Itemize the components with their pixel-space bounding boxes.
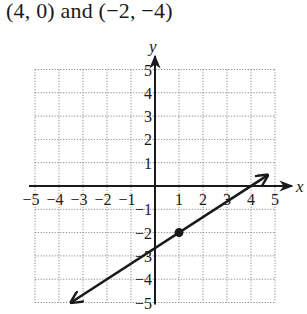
y-tick-label: −2 (135, 225, 152, 242)
y-tick-label: 5 (144, 62, 152, 79)
x-tick-label: −3 (70, 191, 87, 208)
y-tick-label: −5 (135, 295, 152, 312)
y-tick-label: 2 (144, 131, 152, 148)
x-tick-label: −2 (94, 191, 111, 208)
x-tick-label: −4 (46, 191, 63, 208)
x-tick-label: 4 (247, 191, 255, 208)
y-tick-label: −1 (135, 201, 152, 218)
y-axis-label: y (147, 37, 157, 56)
x-tick-label: 1 (175, 191, 183, 208)
y-tick-label: 3 (144, 108, 152, 125)
x-tick-label: 5 (271, 191, 279, 208)
x-axis-label: x (295, 177, 304, 196)
coordinate-plane: xy −5−4−3−2−112345−5−4−3−2−112345 (0, 0, 307, 314)
x-tick-label: −1 (118, 191, 135, 208)
y-tick-label: 1 (144, 155, 152, 172)
x-tick-label: 2 (199, 191, 207, 208)
axes: xy (29, 37, 304, 305)
point-dot (175, 228, 184, 237)
x-tick-label: −5 (22, 191, 39, 208)
y-tick-label: 4 (144, 85, 152, 102)
y-tick-label: −4 (135, 271, 152, 288)
plotted-points (175, 228, 184, 237)
